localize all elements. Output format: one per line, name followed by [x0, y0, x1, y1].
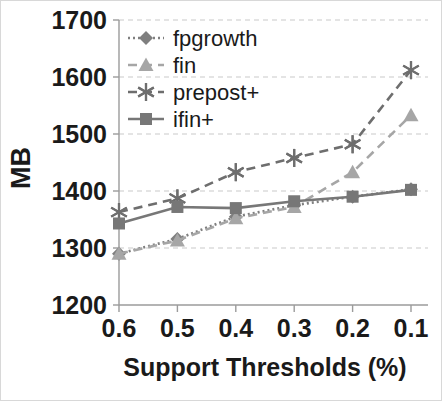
y-tick-label: 1600	[51, 63, 107, 91]
legend-fpgrowth-diamond-marker	[139, 31, 153, 45]
y-axis-ticks-group	[113, 20, 119, 305]
x-axis-title: Support Thresholds (%)	[123, 353, 406, 381]
series-prepost+-asterisk-marker	[345, 135, 361, 153]
legend-label-fpgrowth: fpgrowth	[173, 26, 257, 51]
series-ifin+-square-marker	[171, 201, 183, 213]
x-tick-label: 0.5	[160, 314, 195, 342]
series-line-fpgrowth	[119, 189, 411, 253]
y-axis-title: MB	[6, 147, 36, 189]
x-tick-label: 0.3	[277, 314, 312, 342]
x-tick-label: 0.1	[394, 314, 429, 342]
x-axis-ticks-group	[119, 305, 411, 312]
series-line-ifin+	[119, 190, 411, 224]
x-tick-label: 0.6	[102, 314, 137, 342]
series-ifin+-square-marker	[347, 191, 359, 203]
y-tick-label: 1400	[51, 177, 107, 205]
y-tick-label: 1500	[51, 120, 107, 148]
legend-label-ifin+: ifin+	[173, 107, 214, 132]
legend-label-prepost+: prepost+	[173, 80, 259, 105]
y-tick-label: 1300	[51, 234, 107, 262]
y-tick-label: 1200	[51, 291, 107, 319]
series-prepost+-asterisk-marker	[228, 163, 244, 181]
series-ifin+-square-marker	[288, 195, 300, 207]
y-tick-label: 1700	[51, 6, 107, 34]
x-tick-label: 0.2	[335, 314, 370, 342]
gridlines-group	[119, 20, 428, 248]
x-axis-tick-labels: 0.60.50.40.30.20.1	[102, 314, 429, 342]
series-ifin+-square-marker	[230, 202, 242, 214]
memory-usage-line-chart: 120013001400150016001700 0.60.50.40.30.2…	[0, 0, 442, 401]
chart-container: 120013001400150016001700 0.60.50.40.30.2…	[0, 0, 442, 401]
series-prepost+	[111, 61, 419, 221]
series-fin-triangle-marker	[404, 108, 419, 122]
legend-item-prepost+[interactable]: prepost+	[128, 80, 259, 105]
y-axis-tick-labels: 120013001400150016001700	[51, 6, 107, 319]
series-ifin+-square-marker	[405, 184, 417, 196]
legend-item-fin[interactable]: fin	[128, 53, 196, 78]
series-line-fin	[119, 115, 411, 254]
series-ifin+-square-marker	[113, 217, 125, 229]
data-series-layer	[111, 61, 419, 261]
series-fin	[112, 108, 419, 260]
series-prepost+-asterisk-marker	[286, 149, 302, 167]
legend-ifin+-square-marker	[140, 113, 152, 125]
x-tick-label: 0.4	[218, 314, 253, 342]
legend-item-fpgrowth[interactable]: fpgrowth	[128, 26, 257, 51]
legend-label-fin: fin	[173, 53, 196, 78]
chart-legend: fpgrowthfinprepost+ifin+	[128, 26, 259, 132]
legend-item-ifin+[interactable]: ifin+	[128, 107, 214, 132]
